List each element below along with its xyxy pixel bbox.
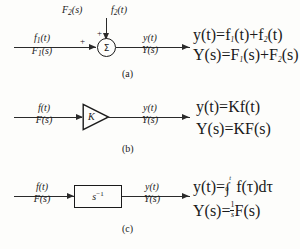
sigma-icon: Σ (104, 43, 110, 53)
caption-c: (c) (122, 223, 133, 234)
gain-output-arrowhead (182, 114, 189, 120)
gain-output-numerator: y(t) (129, 103, 171, 114)
summer-sign-top: + (97, 29, 102, 38)
integrator-input-denominator: F(s) (22, 194, 62, 205)
integral-sign-icon: ∫t0 (225, 178, 236, 196)
integrator-input-arrowhead (67, 193, 74, 199)
summer-output-numerator: y(t) (129, 33, 171, 44)
summer-top-input-label-laplace: F2(s) (62, 4, 82, 17)
block-diagram-integrator: f(t) F(s) s−1 y(t) Y(s) y(t)=∫t0f(τ)dτ Y… (0, 166, 300, 249)
summing-junction[interactable]: Σ (97, 38, 116, 57)
gain-output-denominator: Y(s) (129, 115, 171, 126)
block-diagram-gain: f(t) F(s) K y(t) Y(s) y(t)=Kf(t) Y(s)=KF… (0, 86, 300, 166)
integrator-output-denominator: Y(s) (131, 194, 173, 205)
gain-input-denominator: F(s) (24, 115, 64, 126)
integrator-input-label: f(t) F(s) (22, 182, 62, 204)
integrator-symbol: s−1 (92, 190, 103, 202)
summer-left-input-label: f1(t) F1(s) (22, 33, 62, 58)
block-diagram-summer: F2(s) f2(t) f1(t) F1(s) + + Σ y(t) Y(s) … (0, 0, 300, 86)
gain-equation-laplace: Y(s)=KF(s) (196, 120, 271, 138)
summer-output-arrowhead (182, 44, 189, 50)
summer-equation-time: y(t)=f1(t)+f2(t) (193, 26, 283, 44)
summer-sign-left: + (80, 37, 85, 46)
caption-a: (a) (122, 68, 133, 79)
gain-equation-time: y(t)=Kf(t) (196, 98, 260, 116)
integrator-output-label: y(t) Y(s) (131, 182, 173, 204)
gain-symbol: K (88, 111, 95, 122)
summer-left-input-denominator: F1(s) (22, 46, 62, 58)
summer-left-input-numerator: f1(t) (22, 33, 62, 45)
integrator-output-arrowhead (182, 193, 189, 199)
summer-left-input-arrowhead (89, 44, 96, 50)
gain-input-label: f(t) F(s) (24, 103, 64, 125)
integrator-block[interactable]: s−1 (74, 185, 122, 208)
integrator-output-numerator: y(t) (131, 182, 173, 193)
integrator-equation-laplace: Y(s)=1sF(s) (193, 201, 260, 220)
summer-output-denominator: Y(s) (129, 45, 171, 56)
gain-input-numerator: f(t) (24, 103, 64, 114)
caption-b: (b) (122, 143, 134, 154)
summer-top-input-label-time: f2(t) (111, 4, 127, 17)
figure-canvas: F2(s) f2(t) f1(t) F1(s) + + Σ y(t) Y(s) … (0, 0, 300, 249)
summer-output-label: y(t) Y(s) (129, 33, 171, 55)
integrator-equation-time: y(t)=∫t0f(τ)dτ (193, 178, 273, 196)
integrator-input-numerator: f(t) (22, 182, 62, 193)
summer-equation-laplace: Y(s)=F1(s)+F2(s) (193, 46, 299, 64)
gain-output-label: y(t) Y(s) (129, 103, 171, 125)
